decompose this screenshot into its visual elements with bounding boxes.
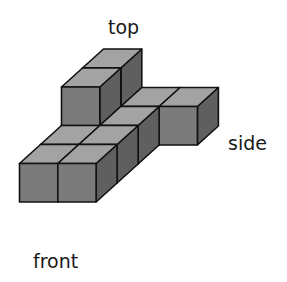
label-top-view: top	[108, 18, 139, 37]
cube-front-face	[58, 164, 96, 203]
cube-front-face	[62, 87, 100, 126]
cube-front-face	[159, 107, 197, 146]
cube-front-face	[20, 164, 58, 203]
label-side-view: side	[228, 134, 267, 153]
label-front-view: front	[33, 252, 78, 271]
